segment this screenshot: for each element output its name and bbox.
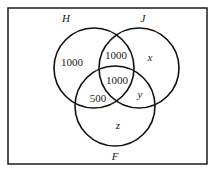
set-j-label: J [141, 12, 147, 24]
region-h-j: 1000 [105, 49, 128, 61]
universe-frame [8, 8, 207, 164]
region-j-only: x [147, 51, 153, 63]
region-f-only: z [115, 119, 121, 131]
region-h-j-f: 1000 [106, 74, 129, 86]
region-h-f: 500 [90, 92, 107, 104]
region-j-f: y [137, 88, 143, 100]
venn-diagram: H J F 1000 1000 1000 500 x y z [0, 0, 214, 171]
set-f-label: F [111, 150, 119, 162]
region-h-only: 1000 [61, 56, 84, 68]
set-h-label: H [61, 12, 71, 24]
